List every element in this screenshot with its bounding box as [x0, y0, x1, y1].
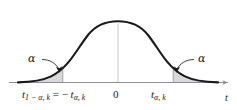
- tick-label-right-critical-value: tα, k: [151, 89, 166, 102]
- tick-left-subscript-b: α, k: [74, 93, 86, 102]
- axis-label-t: t: [225, 93, 228, 103]
- tick-left-equals-negation: = −: [50, 88, 71, 100]
- t-distribution-figure: α α t1 − α, k = − tα, k 0 tα, k t: [0, 0, 237, 110]
- left-alpha-leader-line: [42, 60, 59, 70]
- tick-right-subscript: α, k: [154, 93, 166, 102]
- tick-left-subscript-a: 1 − α, k: [25, 93, 50, 102]
- right-alpha-leader-line: [177, 60, 194, 70]
- alpha-label-right: α: [198, 53, 205, 64]
- alpha-label-left: α: [28, 53, 35, 64]
- tick-label-left-critical-value: t1 − α, k = − tα, k: [22, 89, 85, 102]
- tick-label-zero: 0: [113, 89, 119, 100]
